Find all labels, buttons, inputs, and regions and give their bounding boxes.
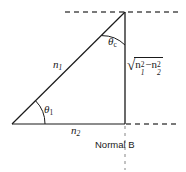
radical-group: √n21−n22 <box>127 57 163 73</box>
hypotenuse-line <box>12 12 125 124</box>
sqrt-n2-subscript: 2 <box>157 69 161 76</box>
label-n2-subscript: 2 <box>77 129 81 138</box>
label-n1: n1 <box>53 59 62 70</box>
label-theta-1: θ1 <box>44 104 53 115</box>
label-theta-c-subscript: c <box>113 40 116 49</box>
label-n2: n2 <box>71 125 80 136</box>
radical-contents: n21−n22 <box>134 57 162 70</box>
label-n2-base: n <box>71 124 77 136</box>
refraction-triangle-diagram: n1 n2 θc θ1 √n21−n22 Normal B <box>0 0 186 172</box>
sqrt-n1-subscript: 1 <box>141 69 145 76</box>
label-normal-b: Normal B <box>95 140 135 150</box>
label-theta-c: θc <box>108 36 117 47</box>
label-n1-base: n <box>53 58 59 70</box>
label-n1-subscript: 1 <box>59 63 63 72</box>
label-theta-1-subscript: 1 <box>49 108 53 117</box>
label-sqrt-expression: √n21−n22 <box>127 57 163 73</box>
diagram-canvas <box>0 0 186 172</box>
